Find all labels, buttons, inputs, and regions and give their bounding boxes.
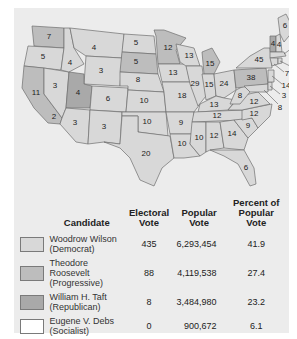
candidate-name: Woodrow Wilson: [49, 234, 124, 244]
label-CA-split: 2: [52, 112, 57, 121]
label-OR: 5: [41, 52, 46, 61]
table-row-roosevelt: Theodore Roosevelt(Progressive) 88 4,119…: [18, 256, 286, 290]
legend-swatch-socialist: [20, 319, 44, 334]
state-MT: [70, 28, 124, 58]
label-PA: 38: [247, 73, 256, 82]
label-IN: 15: [205, 80, 214, 89]
legend-swatch-republican: [20, 295, 44, 310]
candidate-name: Eugene V. Debs: [49, 316, 124, 326]
percent-vote: 41.9: [227, 232, 286, 256]
label-DE: 3: [282, 91, 287, 100]
label-TX: 20: [142, 149, 151, 158]
label-AZ: 3: [73, 118, 78, 127]
candidate-party: (Democrat): [49, 244, 124, 254]
label-ND: 5: [134, 38, 139, 47]
label-WV: 8: [238, 91, 243, 100]
label-MT: 4: [92, 43, 97, 52]
label-NJ: 14: [282, 81, 289, 90]
label-NV: 3: [53, 81, 58, 90]
label-KS: 10: [140, 96, 149, 105]
header-popular-vote: Popular Vote: [172, 198, 227, 232]
header-candidate: Candidate: [47, 198, 126, 232]
label-GA: 14: [228, 129, 237, 138]
label-AR: 9: [179, 118, 184, 127]
state-NJ: [268, 70, 274, 82]
table-row-debs: Eugene V. Debs(Socialist) 0 900,672 6.1: [18, 314, 286, 338]
label-SD: 5: [134, 57, 139, 66]
header-percent-popular-vote: Percent of Popular Vote: [227, 198, 286, 232]
label-ID: 4: [68, 58, 73, 67]
results-table: Candidate Electoral Vote Popular Vote Pe…: [18, 198, 286, 338]
label-NE: 8: [136, 75, 141, 84]
candidate-party: (Progressive): [49, 278, 124, 288]
label-MO: 18: [178, 91, 187, 100]
popular-vote: 900,672: [172, 314, 227, 338]
table-row-taft: William H. Taft(Republican) 8 3,484,980 …: [18, 290, 286, 314]
candidate-party: (Socialist): [49, 326, 124, 336]
table-row-wilson: Woodrow Wilson(Democrat) 435 6,293,454 4…: [18, 232, 286, 256]
label-TN: 12: [213, 111, 222, 120]
label-CT: 7: [285, 69, 289, 78]
label-NH: 4: [277, 40, 282, 49]
label-IA: 13: [169, 68, 178, 77]
label-MD: 8: [278, 103, 283, 112]
label-VT: 4: [271, 39, 276, 48]
popular-vote: 3,484,980: [172, 290, 227, 314]
label-WA: 7: [47, 32, 52, 41]
label-NC: 12: [250, 109, 259, 118]
label-FL: 6: [244, 163, 249, 172]
label-OH: 24: [220, 79, 229, 88]
label-MI: 15: [206, 59, 215, 68]
label-KY: 13: [210, 100, 219, 109]
popular-vote: 6,293,454: [172, 232, 227, 256]
percent-vote: 23.2: [227, 290, 286, 314]
label-ME: 6: [283, 21, 288, 30]
label-MS: 10: [195, 133, 204, 142]
label-WY: 3: [99, 66, 104, 75]
header-electoral-vote: Electoral Vote: [126, 198, 171, 232]
electoral-vote: 88: [126, 256, 171, 290]
swatch-header: [18, 198, 47, 232]
state-MA: [270, 52, 286, 58]
label-VA: 12: [250, 97, 259, 106]
label-NM: 3: [102, 122, 107, 131]
us-election-map: 7 5 11 2 4 3 4 3 4 3 6 3 5 5 8 10 10 20 …: [14, 8, 289, 198]
table-header-row: Candidate Electoral Vote Popular Vote Pe…: [18, 198, 286, 232]
electoral-vote: 435: [126, 232, 171, 256]
label-LA: 10: [178, 139, 187, 148]
label-UT: 4: [76, 88, 81, 97]
candidate-name: Theodore Roosevelt: [49, 258, 124, 278]
electoral-vote: 8: [126, 290, 171, 314]
state-SD: [120, 52, 158, 74]
electoral-vote: 0: [126, 314, 171, 338]
popular-vote: 4,119,538: [172, 256, 227, 290]
state-FL: [210, 150, 256, 186]
legend-swatch-progressive: [20, 266, 44, 281]
label-SC: 9: [246, 121, 251, 130]
percent-vote: 27.4: [227, 256, 286, 290]
legend-swatch-democrat: [20, 237, 44, 252]
candidate-name: William H. Taft: [49, 292, 124, 302]
state-DE: [268, 82, 272, 90]
candidate-party: (Republican): [49, 302, 124, 312]
label-OK: 10: [143, 117, 152, 126]
state-ND: [122, 34, 156, 54]
label-CA: 11: [32, 88, 41, 97]
label-MN: 12: [164, 43, 173, 52]
map-svg: 7 5 11 2 4 3 4 3 4 3 6 3 5 5 8 10 10 20 …: [14, 8, 289, 198]
percent-vote: 6.1: [227, 314, 286, 338]
label-IL: 29: [191, 79, 200, 88]
label-CO: 6: [106, 94, 111, 103]
label-NY: 45: [255, 55, 264, 64]
label-AL: 12: [210, 131, 219, 140]
label-WI: 13: [185, 51, 194, 60]
